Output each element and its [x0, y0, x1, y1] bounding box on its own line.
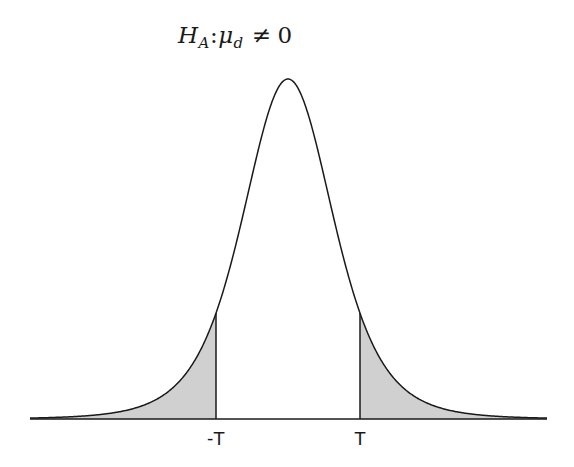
- density-curve: [30, 79, 547, 418]
- right-rejection-region: [360, 313, 547, 419]
- title-separator: :: [210, 22, 218, 48]
- chart-title: HA:μd≠0: [178, 22, 293, 48]
- pos-t-label: T: [354, 428, 366, 450]
- title-operator: ≠: [252, 22, 272, 48]
- title-symbol-subscript: A: [199, 34, 210, 52]
- title-value: 0: [278, 22, 293, 48]
- left-rejection-region: [30, 313, 216, 419]
- title-symbol: H: [178, 22, 199, 48]
- neg-t-label: -T: [207, 428, 225, 450]
- title-param-subscript: d: [234, 34, 244, 52]
- title-param: μ: [218, 22, 233, 48]
- t-distribution-chart: [0, 0, 574, 467]
